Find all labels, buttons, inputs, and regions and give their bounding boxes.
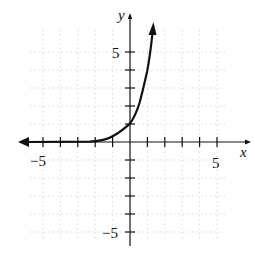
grid xyxy=(30,30,225,240)
y-tick-label-pos5: 5 xyxy=(112,45,120,61)
x-tick-label-pos5: 5 xyxy=(212,155,220,171)
exponential-curve xyxy=(18,22,157,147)
exponential-graph: y x −5 5 5 −5 xyxy=(0,0,255,253)
curve-left-arrow-icon xyxy=(18,137,29,147)
curve-right-arrow-icon xyxy=(149,22,157,35)
x-tick-label-neg5: −5 xyxy=(30,153,46,169)
y-axis xyxy=(125,13,135,246)
y-axis-arrow-icon xyxy=(128,13,132,19)
x-axis-label: x xyxy=(239,144,247,160)
y-axis-label: y xyxy=(116,7,125,23)
y-tick-label-neg5: −5 xyxy=(102,225,118,241)
